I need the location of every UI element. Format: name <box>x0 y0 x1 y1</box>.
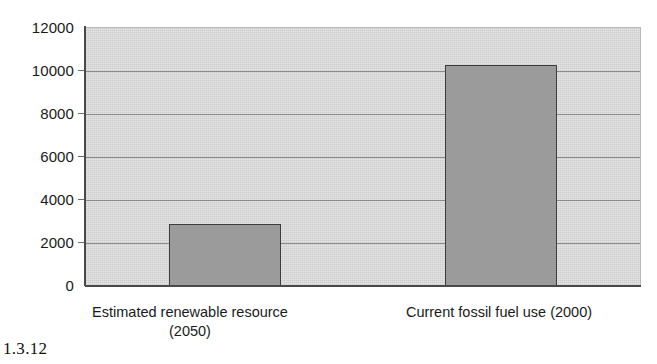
plot-area <box>85 27 641 286</box>
bar-current-fossil-fuel-use <box>445 65 557 286</box>
y-axis-tick-label: 6000 <box>8 149 74 164</box>
bar-chart-figure: 12000 10000 8000 6000 4000 2000 0 Estima… <box>0 0 657 364</box>
x-axis-line <box>85 285 641 287</box>
y-axis-tick-label: 8000 <box>8 106 74 121</box>
y-axis-tick-label: 10000 <box>8 63 74 78</box>
x-axis-category-label-1: Estimated renewable resource (2050) <box>61 303 319 341</box>
figure-caption: 1.3.12 <box>3 339 47 358</box>
y-axis-tick-label: 2000 <box>8 235 74 250</box>
y-axis-line <box>84 26 86 286</box>
bar-estimated-renewable-resource <box>169 224 281 286</box>
y-axis-tick-label: 4000 <box>8 192 74 207</box>
y-axis-tick-label: 12000 <box>8 20 74 35</box>
x-axis-category-label-1-line2: (2050) <box>61 322 319 341</box>
x-axis-category-label-2-line1: Current fossil fuel use (2000) <box>406 304 592 320</box>
x-axis-category-label-2: Current fossil fuel use (2000) <box>370 303 628 322</box>
x-axis-category-label-1-line1: Estimated renewable resource <box>92 304 288 320</box>
y-axis-tick-label: 0 <box>8 278 74 293</box>
